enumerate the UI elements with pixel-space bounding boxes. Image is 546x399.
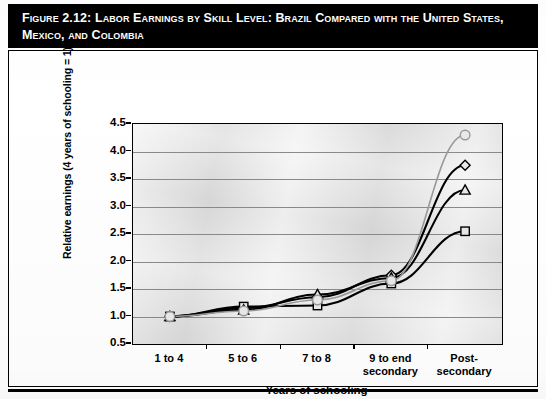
figure-title-text: Labor Earnings by Skill Level: Brazil Co… bbox=[22, 11, 504, 42]
x-tick-label: 1 to 4 bbox=[127, 352, 211, 365]
y-tick-mark bbox=[126, 287, 131, 288]
figure-number: Figure 2.12: bbox=[22, 11, 91, 25]
y-tick-mark bbox=[126, 177, 131, 178]
y-axis-title: Relative earnings (4 years of schooling … bbox=[61, 38, 73, 268]
x-tick-label: 7 to 8 bbox=[275, 352, 359, 365]
y-tick-mark bbox=[126, 260, 131, 261]
chart-frame: 4.54.03.53.02.52.01.51.00.5 Relative ear… bbox=[8, 50, 538, 387]
x-tick-label: 5 to 6 bbox=[201, 352, 285, 365]
x-tick-label: 9 to endsecondary bbox=[348, 352, 432, 377]
y-tick-mark bbox=[126, 122, 131, 123]
y-tick-mark bbox=[126, 205, 131, 206]
data-point-marker bbox=[460, 130, 470, 140]
y-tick-label: 4.0 bbox=[86, 144, 126, 156]
y-tick-label: 3.0 bbox=[86, 199, 126, 211]
x-tick-label: Post-secondary bbox=[422, 352, 506, 377]
y-tick-mark bbox=[126, 315, 131, 316]
data-point-marker bbox=[461, 227, 469, 235]
y-tick-label: 1.5 bbox=[86, 281, 126, 293]
data-point-marker bbox=[460, 160, 470, 170]
data-point-marker bbox=[387, 276, 397, 286]
y-tick-mark bbox=[126, 150, 131, 151]
x-axis-tick-labels: 1 to 45 to 67 to 89 to endsecondaryPost-… bbox=[132, 348, 501, 380]
figure-title: Figure 2.12: Labor Earnings by Skill Lev… bbox=[22, 10, 530, 43]
y-tick-label: 4.5 bbox=[86, 116, 126, 128]
plot-area bbox=[132, 123, 503, 345]
data-point-marker bbox=[165, 312, 175, 322]
y-tick-label: 3.5 bbox=[86, 171, 126, 183]
y-tick-label: 1.0 bbox=[86, 309, 126, 321]
series-layer bbox=[133, 124, 502, 344]
y-tick-label: 2.0 bbox=[86, 254, 126, 266]
data-point-marker bbox=[313, 295, 323, 305]
y-tick-label: 0.5 bbox=[86, 336, 126, 348]
figure-title-bar: Figure 2.12: Labor Earnings by Skill Lev… bbox=[8, 4, 538, 48]
figure-container: Figure 2.12: Labor Earnings by Skill Lev… bbox=[0, 0, 546, 399]
bottom-rule bbox=[8, 389, 538, 392]
y-tick-label: 2.5 bbox=[86, 226, 126, 238]
y-axis-tick-labels: 4.54.03.53.02.52.01.51.00.5 bbox=[82, 123, 126, 343]
data-point-marker bbox=[239, 306, 249, 316]
y-tick-mark bbox=[126, 342, 131, 343]
y-tick-mark bbox=[126, 232, 131, 233]
